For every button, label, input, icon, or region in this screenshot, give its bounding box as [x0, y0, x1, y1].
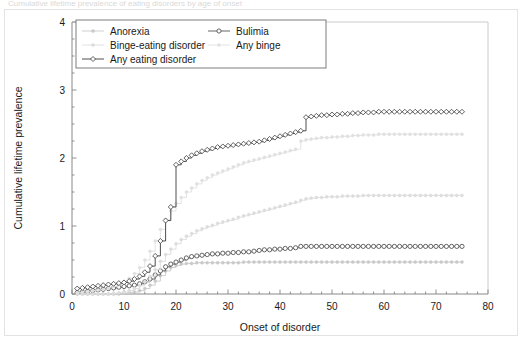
data-series-group — [75, 109, 465, 295]
x-tick-label: 20 — [170, 301, 182, 312]
x-tick-label: 30 — [222, 301, 234, 312]
x-tick-label: 60 — [378, 301, 390, 312]
y-tick-label: 3 — [59, 85, 65, 96]
chart-legend[interactable]: AnorexiaBulimiaBinge-eating disorderAny … — [76, 20, 326, 68]
y-tick-label: 2 — [59, 153, 65, 164]
x-tick-label: 0 — [69, 301, 75, 312]
legend-label: Any eating disorder — [110, 54, 197, 65]
legend-label: Binge-eating disorder — [110, 40, 206, 51]
legend-label: Bulimia — [236, 26, 269, 37]
x-tick-label: 80 — [482, 301, 494, 312]
y-tick-label: 1 — [59, 221, 65, 232]
x-axis-title: Onset of disorder — [240, 321, 321, 333]
legend-label: Anorexia — [110, 26, 150, 37]
x-tick-label: 70 — [430, 301, 442, 312]
legend-label: Any binge — [236, 40, 281, 51]
y-tick-label: 4 — [59, 17, 65, 28]
x-tick-label: 40 — [274, 301, 286, 312]
chart-page: Cumulative lifetime prevalence of eating… — [0, 0, 524, 345]
series-any-binge — [76, 133, 464, 294]
axis-titles: Onset of disorderCumulative lifetime pre… — [12, 86, 321, 333]
x-tick-label: 10 — [118, 301, 130, 312]
eating-disorder-prevalence-chart: 0102030405060708001234 Onset of disorder… — [0, 0, 524, 345]
y-tick-label: 0 — [59, 289, 65, 300]
y-axis-title: Cumulative lifetime prevalence — [12, 86, 24, 229]
x-tick-label: 50 — [326, 301, 338, 312]
